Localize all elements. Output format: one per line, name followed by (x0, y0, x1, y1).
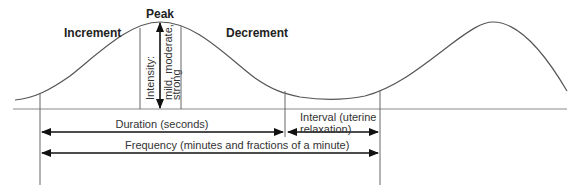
contraction-diagram: Increment Peak Decrement Intensity: mild… (0, 0, 577, 192)
increment-label: Increment (64, 26, 121, 40)
interval-label-line2: relaxation) (300, 123, 351, 135)
duration-label: Duration (seconds) (116, 118, 209, 130)
frequency-label: Frequency (minutes and fractions of a mi… (125, 139, 349, 151)
intensity-label: Intensity: (144, 56, 156, 100)
interval-label-line1: Interval (uterine (300, 111, 376, 123)
decrement-label: Decrement (226, 26, 288, 40)
peak-label: Peak (146, 7, 174, 21)
intensity-values-line2: strong (170, 69, 182, 100)
